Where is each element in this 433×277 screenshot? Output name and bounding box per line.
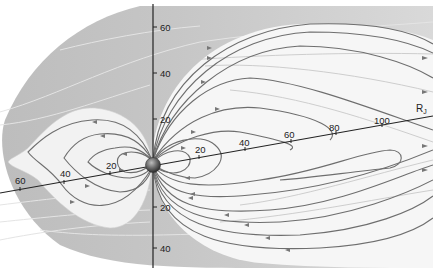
jupiter-planet — [146, 158, 161, 173]
eq-tick-20-tail: 20 — [195, 144, 206, 155]
eq-tick-80-tail: 80 — [329, 122, 340, 133]
eq-tick-40-tail: 40 — [239, 137, 250, 148]
magnetosphere-diagram: 60 40 20 20 40 20 40 60 80 100 20 40 60 … — [0, 0, 433, 277]
eq-tick-20-day: 20 — [106, 160, 117, 171]
eq-tick-60-day: 60 — [15, 175, 26, 186]
v-tick-40-south: 40 — [160, 243, 171, 254]
eq-tick-40-day: 40 — [60, 168, 71, 179]
v-tick-40-north: 40 — [160, 68, 171, 79]
eq-tick-100-tail: 100 — [374, 115, 390, 126]
v-tick-20-north: 20 — [160, 114, 171, 125]
v-tick-60-north: 60 — [160, 22, 171, 33]
v-tick-20-south: 20 — [160, 202, 171, 213]
eq-tick-60-tail: 60 — [284, 129, 295, 140]
